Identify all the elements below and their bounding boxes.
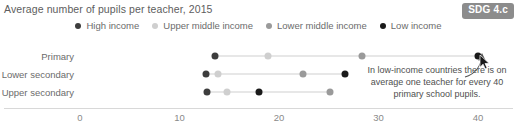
mouse-pointer-icon	[479, 54, 490, 70]
x-axis-line	[4, 108, 513, 109]
y-axis-label: Primary	[41, 51, 74, 62]
data-point[interactable]	[299, 71, 306, 78]
data-point[interactable]	[326, 89, 333, 96]
x-tick-label: 40	[473, 112, 484, 123]
connector-line	[215, 56, 478, 57]
y-axis-label: Lower secondary	[2, 69, 74, 80]
chart-annotation: In low-income countries there is on aver…	[363, 65, 511, 101]
data-point[interactable]	[203, 71, 210, 78]
data-point[interactable]	[204, 89, 211, 96]
data-point[interactable]	[265, 53, 272, 60]
data-point[interactable]	[215, 71, 222, 78]
connector-line	[206, 74, 344, 75]
data-point[interactable]	[224, 89, 231, 96]
chart-root: Average number of pupils per teacher, 20…	[0, 0, 517, 130]
data-point[interactable]	[358, 53, 365, 60]
x-tick-label: 30	[373, 112, 384, 123]
x-tick-label: 20	[274, 112, 285, 123]
x-tick-label: 0	[77, 112, 82, 123]
data-point[interactable]	[341, 71, 348, 78]
x-tick-label: 10	[174, 112, 185, 123]
data-point[interactable]	[212, 53, 219, 60]
data-point[interactable]	[256, 89, 263, 96]
y-axis-label: Upper secondary	[2, 87, 74, 98]
